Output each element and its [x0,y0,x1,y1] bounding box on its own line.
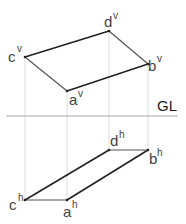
vertex-ah [66,199,69,202]
vertex-av [66,90,69,93]
vertex-cv [24,56,27,59]
label-dv: d [104,13,112,30]
label-dh: d [110,132,118,149]
edge-ah-bh [67,150,148,200]
top-view [25,150,148,200]
projection-diagram: GL c v d v b v a v d h b h c h a h [0,0,186,224]
label-av-sup: v [78,88,83,99]
edge-av-cv [25,57,67,91]
label-bv-sup: v [157,53,162,64]
label-av: a [69,91,78,108]
label-ch: c [9,196,17,213]
label-ch-sup: h [18,192,24,203]
vertex-bh [147,149,150,152]
label-cv: c [8,48,16,65]
front-view [25,31,148,91]
label-bv: b [148,57,156,74]
label-dv-sup: v [113,10,118,21]
label-dh-sup: h [119,129,125,140]
vertex-dh [108,149,111,152]
ground-line-label: GL [157,97,177,114]
vertex-dv [108,30,111,33]
label-bh-sup: h [157,147,163,158]
label-ah: a [63,203,72,220]
vertex-bv [147,63,150,66]
edge-dv-bv [109,31,148,64]
label-cv-sup: v [17,43,22,54]
edge-cv-dv [25,31,109,57]
vertex-ch [24,199,27,202]
edge-bv-av [67,64,148,91]
label-ah-sup: h [72,199,78,210]
